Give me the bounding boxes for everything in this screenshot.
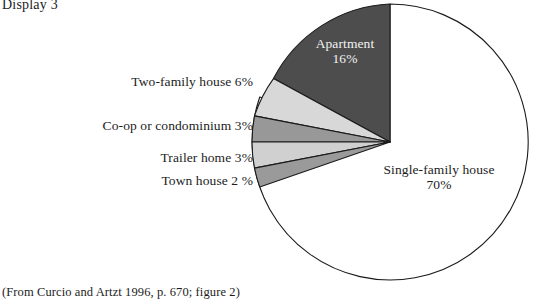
pie-chart-figure: Display 3 Apartment 16% Single-family ho…	[0, 0, 537, 305]
slice-label-coop: Co-op or condominium 3%	[103, 118, 253, 133]
slice-label-two-family: Two-family house 6%	[131, 74, 253, 89]
pie-chart: Apartment 16% Single-family house 70% Tw…	[0, 0, 537, 305]
slice-label-apartment-value: 16%	[295, 51, 395, 66]
slice-label-single-family: Single-family house 70%	[359, 162, 519, 192]
pie-chart-svg	[0, 0, 537, 305]
slice-label-town-house: Town house 2 %	[161, 173, 253, 188]
slice-label-single-family-name: Single-family house	[359, 162, 519, 177]
slice-label-apartment: Apartment 16%	[295, 36, 395, 66]
slice-label-trailer: Trailer home 3%	[161, 150, 254, 165]
slice-label-apartment-name: Apartment	[295, 36, 395, 51]
slice-label-single-family-value: 70%	[359, 177, 519, 192]
source-caption: (From Curcio and Artzt 1996, p. 670; fig…	[2, 285, 240, 300]
